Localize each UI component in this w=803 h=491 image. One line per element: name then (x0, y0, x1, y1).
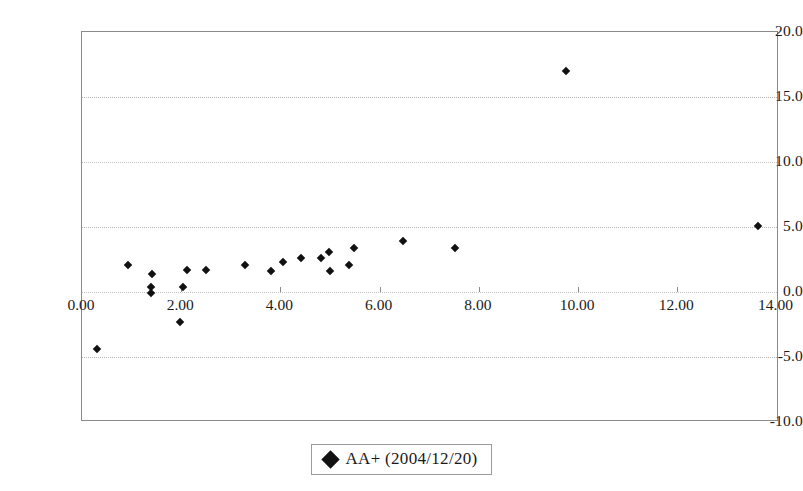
x-tick-mark (380, 287, 381, 292)
data-point (325, 247, 333, 255)
y-tick-label: -5.0 (731, 348, 803, 364)
x-tick-label: 4.00 (266, 297, 293, 313)
data-point (147, 289, 155, 297)
x-tick-mark (677, 287, 678, 292)
x-tick-label: 2.00 (167, 297, 194, 313)
data-point (124, 260, 132, 268)
data-point (182, 266, 190, 274)
x-tick-label: 14.00 (758, 297, 793, 313)
x-tick-mark (578, 287, 579, 292)
y-tick-label: 10.0 (731, 153, 803, 169)
gridline (82, 292, 777, 293)
data-point (450, 244, 458, 252)
y-tick-label: 5.0 (731, 218, 803, 234)
data-point (175, 318, 183, 326)
x-tick-label: 0.00 (67, 297, 94, 313)
data-point (345, 260, 353, 268)
y-tick-label: 15.0 (731, 88, 803, 104)
x-tick-label: 10.00 (560, 297, 595, 313)
gridline (82, 162, 777, 163)
data-point (399, 237, 407, 245)
legend-label: AA+ (2004/12/20) (346, 450, 478, 468)
data-point (148, 270, 156, 278)
data-point (178, 283, 186, 291)
x-tick-mark (479, 287, 480, 292)
y-tick-label: 20.0 (731, 23, 803, 39)
data-point (326, 267, 334, 275)
gridline (82, 227, 777, 228)
scatter-chart: 20.015.010.05.00.0-5.0-10.0 0.002.004.00… (0, 0, 803, 491)
gridline (82, 97, 777, 98)
y-tick-label: -10.0 (731, 413, 803, 429)
data-point (350, 244, 358, 252)
plot-area (81, 31, 778, 421)
data-point (93, 344, 101, 352)
legend: AA+ (2004/12/20) (311, 444, 493, 475)
data-point (317, 254, 325, 262)
x-tick-mark (280, 287, 281, 292)
x-tick-label: 8.00 (464, 297, 491, 313)
data-point (279, 258, 287, 266)
gridline (82, 357, 777, 358)
data-point (267, 267, 275, 275)
data-point (202, 266, 210, 274)
x-tick-label: 6.00 (365, 297, 392, 313)
data-point (297, 253, 305, 261)
x-tick-label: 12.00 (659, 297, 694, 313)
data-point (240, 260, 248, 268)
diamond-marker-icon (321, 450, 339, 468)
data-point (562, 67, 570, 75)
